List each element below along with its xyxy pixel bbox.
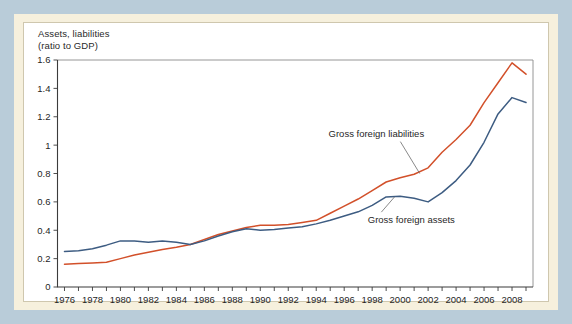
chart-series-group [64,63,526,264]
x-tick-label: 1984 [166,294,187,305]
figure-root: Assets, liabilities (ratio to GDP) 00.20… [0,0,572,324]
x-tick-label: 1994 [306,294,327,305]
x-tick-label: 2002 [418,294,439,305]
y-tick-label: 1.4 [37,83,50,94]
y-tick-label: 0 [45,281,50,292]
y-tick-label: 0.4 [37,225,50,236]
x-tick-label: 1998 [362,294,383,305]
y-axis-ticks [54,60,58,287]
x-tick-label: 1990 [250,294,271,305]
y-tick-label: 1.6 [37,54,50,65]
x-tick-label: 1976 [54,294,75,305]
x-tick-label: 1978 [82,294,103,305]
series-annotation-gross-foreign-liabilities: Gross foreign liabilities [329,128,425,139]
annotation-leader-line [400,142,419,174]
x-tick-label: 1980 [110,294,131,305]
series-line-gross-foreign-liabilities [64,63,526,264]
x-axis-ticks [64,287,526,291]
x-tick-label: 2006 [473,294,494,305]
x-tick-label: 2008 [501,294,522,305]
x-tick-label: 1992 [278,294,299,305]
x-tick-label: 1996 [334,294,355,305]
y-axis-tick-labels: 00.20.40.60.811.21.41.6 [37,54,50,292]
series-line-gross-foreign-assets [64,98,526,252]
y-tick-label: 1.2 [37,111,50,122]
x-tick-label: 1982 [138,294,159,305]
x-tick-label: 2000 [390,294,411,305]
x-tick-label: 1986 [194,294,215,305]
y-tick-label: 1 [45,140,50,151]
y-tick-label: 0.8 [37,168,50,179]
y-tick-label: 0.6 [37,196,50,207]
chart-annotations: Gross foreign liabilitiesGross foreign a… [329,128,456,226]
x-axis-tick-labels: 1976197819801982198419861988199019921994… [54,294,523,305]
y-tick-label: 0.2 [37,253,50,264]
chart-svg: 00.20.40.60.811.21.41.6 1976197819801982… [0,0,572,324]
series-annotation-gross-foreign-assets: Gross foreign assets [368,214,455,225]
x-tick-label: 1988 [222,294,243,305]
x-tick-label: 2004 [446,294,467,305]
